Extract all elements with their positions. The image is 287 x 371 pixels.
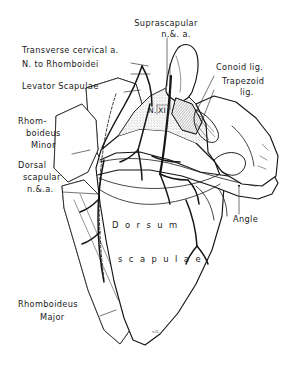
label-rhomboideus-minor-line2: boideus xyxy=(26,128,61,138)
label-nerve-xi-prefix: N. xyxy=(148,106,157,115)
label-rhomboideus-minor-line1: Rhom- xyxy=(18,116,47,126)
label-rhomboideus-minor-line3: Minor xyxy=(31,140,56,150)
label-suprascapular-line1: Suprascapular xyxy=(134,18,198,28)
label-nerve-to-rhomboidei: N. to Rhomboidei xyxy=(22,59,99,69)
label-conoid-ligament: Conoid lig. xyxy=(216,62,263,72)
label-trapezoid-ligament-line2: lig. xyxy=(240,87,254,97)
label-dorsum: D o r s u m xyxy=(112,220,179,230)
anatomical-plate: Suprascapular n.&. a. Transverse cervica… xyxy=(0,0,287,371)
label-nerve-xi: N. XI xyxy=(148,105,169,115)
label-angle: Angle xyxy=(233,214,258,224)
label-scapulae: s c a p u l a e xyxy=(118,254,202,264)
label-transverse-cervical-artery: Transverse cervical a. xyxy=(21,45,119,55)
artist-signature: v.G. xyxy=(152,329,160,334)
label-dorsal-scapular-line1: Dorsal xyxy=(18,160,46,170)
label-rhomboideus-major-line1: Rhomboideus xyxy=(18,299,78,309)
label-levator-scapulae: Levator Scapulae xyxy=(22,81,99,91)
label-trapezoid-ligament-line1: Trapezoid xyxy=(221,76,264,86)
label-nerve-xi-numeral: XI xyxy=(158,106,166,115)
label-dorsal-scapular-line3: n.&.a. xyxy=(27,184,54,194)
label-rhomboideus-major-line2: Major xyxy=(40,312,65,322)
label-suprascapular-line2: n.&. a. xyxy=(161,29,190,39)
label-dorsal-scapular-line2: scapular xyxy=(23,172,61,182)
